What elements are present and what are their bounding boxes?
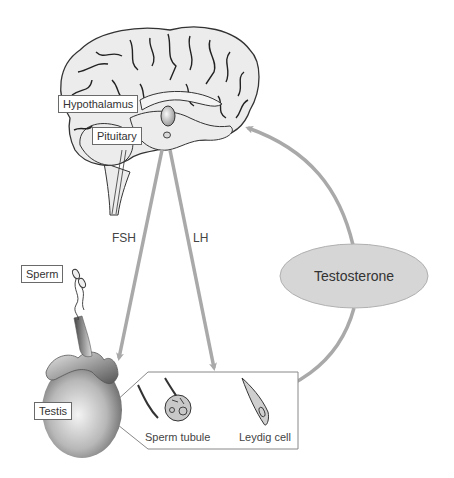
- testosterone-label: Testosterone: [314, 268, 394, 284]
- testis-illustration: [42, 316, 122, 458]
- pituitary-label: Pituitary: [92, 127, 142, 145]
- testosterone-to-brain-arrow: [248, 128, 353, 245]
- testis-label: Testis: [34, 402, 72, 420]
- pituitary-gland: [164, 132, 171, 138]
- thalamus: [161, 106, 175, 126]
- sperm-illustration: [71, 268, 87, 320]
- lh-arrow: [170, 150, 214, 368]
- lh-label: LH: [193, 231, 208, 245]
- sperm-label: Sperm: [21, 265, 63, 283]
- brain-illustration: [61, 27, 259, 215]
- sperm-tubule-label: Sperm tubule: [145, 431, 210, 443]
- leydig-cell-label: Leydig cell: [239, 431, 291, 443]
- hypothalamus-label: Hypothalamus: [58, 95, 138, 113]
- fsh-label: FSH: [112, 231, 136, 245]
